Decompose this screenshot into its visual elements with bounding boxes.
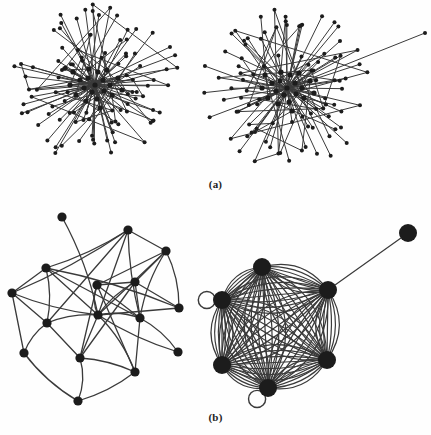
node-leaf	[30, 95, 34, 99]
edge	[78, 358, 83, 401]
node-hub	[289, 108, 294, 113]
node-leaf	[109, 151, 113, 155]
node-leaf	[105, 138, 109, 142]
node-leaf	[81, 118, 85, 122]
node-leaf	[245, 89, 249, 93]
node-leaf	[76, 48, 80, 52]
node-leaf	[125, 73, 129, 77]
node-leaf	[272, 8, 276, 12]
node-leaf	[108, 6, 112, 10]
node-leaf	[47, 112, 51, 116]
node-leaf	[135, 90, 139, 94]
node-leaf	[77, 139, 81, 143]
node-leaf	[64, 65, 68, 69]
node-leaf	[250, 131, 254, 135]
node-leaf	[299, 23, 303, 27]
node-leaf	[306, 63, 310, 67]
node-leaf	[340, 87, 344, 91]
node-leaf	[53, 151, 57, 155]
node-leaf	[333, 127, 337, 131]
edge	[128, 230, 166, 251]
node-leaf	[60, 46, 64, 50]
node-leaf	[358, 103, 362, 107]
node-leaf	[115, 14, 119, 18]
node-leaf	[54, 90, 58, 94]
node-leaf	[68, 111, 72, 115]
node	[318, 351, 336, 369]
node-leaf	[125, 110, 129, 114]
edge	[98, 315, 135, 372]
node-hub	[85, 75, 90, 80]
node	[42, 318, 51, 327]
node	[130, 367, 139, 376]
node-leaf	[338, 39, 342, 43]
node	[75, 353, 84, 362]
node-leaf	[309, 111, 313, 115]
node-leaf	[92, 142, 96, 146]
panel-a-right	[202, 8, 427, 163]
node	[7, 288, 16, 297]
node-leaf	[365, 70, 369, 74]
node-leaf	[90, 134, 94, 138]
node-leaf	[264, 140, 268, 144]
node-leaf	[240, 56, 244, 60]
node-leaf	[327, 114, 331, 118]
node-leaf	[306, 124, 310, 128]
edge	[80, 358, 135, 372]
node-hub	[299, 85, 304, 90]
node-leaf	[110, 120, 114, 124]
node-leaf	[173, 53, 177, 57]
node	[135, 313, 144, 322]
node-leaf	[332, 103, 336, 107]
node-leaf	[56, 59, 60, 63]
node-leaf	[259, 15, 263, 19]
node-leaf	[339, 54, 343, 58]
node-leaf	[315, 152, 319, 156]
node-leaf	[52, 28, 56, 32]
panel-a-graphs	[0, 0, 431, 200]
node-leaf	[58, 26, 62, 30]
panel-a	[0, 0, 431, 200]
node-leaf	[97, 13, 101, 17]
node-leaf	[116, 62, 120, 66]
node-hub	[77, 77, 82, 82]
node-leaf	[241, 78, 245, 82]
node-leaf	[233, 29, 237, 33]
node-hub	[115, 75, 120, 80]
node-leaf	[217, 76, 221, 80]
node-leaf	[268, 145, 272, 149]
node	[259, 379, 277, 397]
node-hub	[95, 69, 100, 74]
edge	[78, 372, 135, 401]
node-hub	[101, 88, 106, 93]
node-leaf	[69, 62, 73, 66]
node-leaf	[134, 96, 138, 100]
node-leaf	[358, 62, 362, 66]
node-outlier	[423, 31, 427, 35]
node-leaf	[339, 126, 343, 130]
node-leaf	[12, 64, 16, 68]
node-leaf	[236, 109, 240, 113]
node-leaf	[45, 138, 49, 142]
node-leaf	[257, 97, 261, 101]
node-leaf	[118, 38, 122, 42]
node-leaf	[287, 159, 291, 163]
node-leaf	[299, 54, 303, 58]
node-leaf	[91, 2, 95, 6]
edge-chord	[133, 80, 143, 96]
node-leaf	[345, 141, 349, 145]
node-leaf	[125, 38, 129, 42]
node-hub	[311, 90, 316, 95]
node-leaf	[203, 64, 207, 68]
node-leaf	[54, 145, 58, 149]
node-hub	[73, 92, 78, 97]
edge-parallel	[327, 290, 328, 360]
node-leaf	[151, 119, 155, 123]
node-leaf	[126, 102, 130, 106]
node-leaf	[274, 25, 278, 29]
node-hub	[100, 77, 105, 82]
node-leaf	[158, 110, 162, 114]
figure-root: (a) (b)	[0, 0, 431, 435]
node-leaf	[309, 68, 313, 72]
node-leaf	[238, 149, 242, 153]
